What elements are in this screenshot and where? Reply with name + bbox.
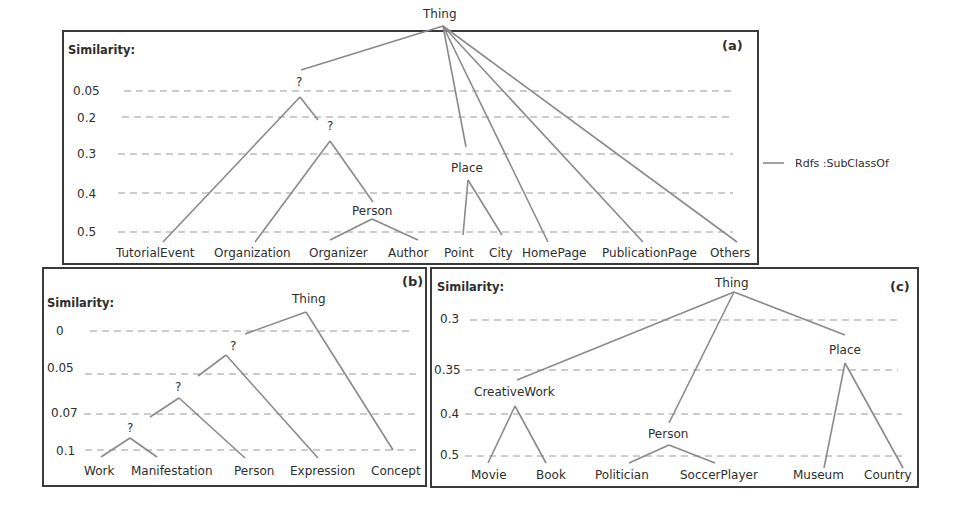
panel-a-leaf-homepage: HomePage <box>522 246 587 260</box>
panel-a-tag: (a) <box>722 38 743 53</box>
panel-c-leaf-politician: Politician <box>595 468 649 482</box>
panel-c-frame <box>431 268 918 487</box>
panel-c-leaf-soccerplayer: SoccerPlayer <box>680 468 758 482</box>
panel-b-axis-title: Similarity: <box>47 296 114 310</box>
panel-b-leaf-expression: Expression <box>290 464 355 478</box>
dendrogram-figure: (a) Similarity: 0.05 0.2 0.3 0.4 0.5 <box>0 0 955 515</box>
panel-c-creativework-node: CreativeWork <box>474 385 555 399</box>
panel-a-leaf-city: City <box>489 246 513 260</box>
panel-a-edges <box>163 26 737 242</box>
panel-a-level-0: 0.05 <box>73 84 100 98</box>
panel-a-leaf-publicationpage: PublicationPage <box>602 246 697 260</box>
panel-a-frame <box>63 31 758 264</box>
panel-a-level-1: 0.2 <box>77 111 96 125</box>
panel-b-cluster-node-2: ? <box>175 380 181 394</box>
panel-a-leaf-point: Point <box>444 246 474 260</box>
panel-c-leaf-country: Country <box>864 468 912 482</box>
panel-b-edges <box>101 312 393 458</box>
panel-c-leaf-movie: Movie <box>471 468 507 482</box>
panel-c-leaf-museum: Museum <box>793 468 844 482</box>
panel-a-level-2: 0.3 <box>77 147 96 161</box>
legend: Rdfs :SubClassOf <box>763 157 890 170</box>
panel-b-level-1: 0.05 <box>47 361 74 375</box>
panel-b-root-node: Thing <box>291 292 326 306</box>
panel-b-level-2: 0.07 <box>51 406 78 420</box>
panel-b-cluster-node-1: ? <box>230 339 236 353</box>
panel-a-cluster-node-1: ? <box>296 75 302 89</box>
panel-c-root-node: Thing <box>714 276 749 290</box>
panel-c-place-node: Place <box>829 343 861 357</box>
panel-c-axis-title: Similarity: <box>437 280 504 294</box>
panel-a-leaf-others: Others <box>710 246 750 260</box>
panel-b-leaf-person: Person <box>234 464 274 478</box>
panel-a-leaf-organizer: Organizer <box>309 246 368 260</box>
panel-c-person-node: Person <box>648 427 688 441</box>
panel-b-leaf-work: Work <box>84 464 114 478</box>
panel-a: (a) Similarity: 0.05 0.2 0.3 0.4 0.5 <box>63 7 758 264</box>
panel-b-leaf-concept: Concept <box>371 464 421 478</box>
panel-c-edges <box>488 292 903 468</box>
legend-label: Rdfs :SubClassOf <box>795 157 890 170</box>
panel-c-tag: (c) <box>890 279 910 294</box>
panel-a-leaf-author: Author <box>388 246 428 260</box>
panel-a-cluster-node-2: ? <box>327 119 333 133</box>
panel-a-level-4: 0.5 <box>77 225 96 239</box>
panel-a-root-node: Thing <box>422 7 457 21</box>
panel-b-leaf-manifestation: Manifestation <box>131 464 213 478</box>
panel-c-level-3: 0.5 <box>440 448 459 462</box>
panel-b-level-3: 0.1 <box>56 444 75 458</box>
panel-c-level-0: 0.3 <box>440 312 459 326</box>
panel-a-level-3: 0.4 <box>77 187 96 201</box>
panel-a-place-node: Place <box>451 161 483 175</box>
panel-a-leaf-tutorialevent: TutorialEvent <box>115 246 195 260</box>
panel-a-leaf-organization: Organization <box>214 246 291 260</box>
panel-a-axis-title: Similarity: <box>68 43 135 57</box>
panel-a-person-node: Person <box>352 204 392 218</box>
panel-c-leaf-book: Book <box>536 468 566 482</box>
panel-b: (b) Similarity: 0 0.05 0.07 0.1 Thing ? … <box>43 268 426 486</box>
panel-b-level-0: 0 <box>56 324 64 338</box>
panel-b-cluster-node-3: ? <box>127 421 133 435</box>
panel-c-level-1: 0.35 <box>434 363 461 377</box>
panel-c: (c) Similarity: 0.3 0.35 0.4 0.5 Thing P… <box>431 268 918 487</box>
panel-b-tag: (b) <box>402 274 423 289</box>
panel-c-level-2: 0.4 <box>440 407 459 421</box>
